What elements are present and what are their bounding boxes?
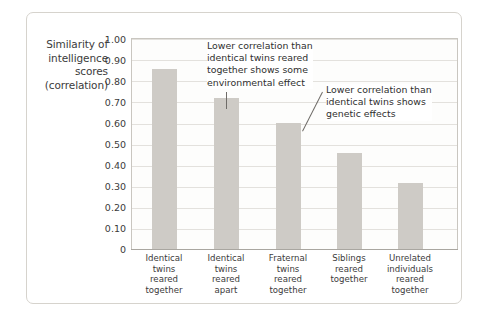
- annotation-line: Lower correlation than: [326, 84, 432, 96]
- ytick-0.50: 0.50: [94, 139, 126, 150]
- bar-fraternal-twins-reared-together: [276, 123, 301, 250]
- ytick-0.70: 0.70: [94, 97, 126, 108]
- ytick-0.80: 0.80: [94, 76, 126, 87]
- ytick-0.20: 0.20: [94, 202, 126, 213]
- ytick-0.10: 0.10: [94, 223, 126, 234]
- annotation-leader-environmental-effect: [226, 92, 227, 109]
- xtick-line: Siblings: [317, 253, 381, 264]
- bar-identical-twins-reared-together: [152, 69, 177, 251]
- annotation-line: together shows some: [207, 64, 313, 76]
- bar-identical-twins-reared-apart: [214, 98, 239, 250]
- xtick-line: twins: [256, 264, 320, 275]
- ytick-0.40: 0.40: [94, 160, 126, 171]
- xtick-line: Fraternal: [256, 253, 320, 264]
- xtick-line: together: [317, 274, 381, 285]
- xtick-line: together: [256, 285, 320, 296]
- x-axis-line: [131, 249, 458, 250]
- xtick-line: Identical: [194, 253, 258, 264]
- xtick-line: reared: [132, 274, 196, 285]
- xtick-line: reared: [256, 274, 320, 285]
- xtick-line: reared: [317, 264, 381, 275]
- annotation-line: Lower correlation than: [207, 40, 313, 52]
- annotation-line: environmental effect: [207, 77, 313, 89]
- xtick-line: apart: [194, 285, 258, 296]
- xtick-fraternal-twins-reared-together: Fraternal twins reared together: [256, 253, 320, 295]
- ytick-0.30: 0.30: [94, 181, 126, 192]
- ytick-0.60: 0.60: [94, 118, 126, 129]
- xtick-line: individuals: [378, 264, 442, 275]
- xtick-identical-twins-reared-apart: Identical twins reared apart: [194, 253, 258, 295]
- xtick-line: together: [132, 285, 196, 296]
- ytick-0.90: 0.90: [94, 55, 126, 66]
- annotation-line: identical twins shows: [326, 96, 432, 108]
- ytick-1.00: 1.00: [94, 34, 126, 45]
- y-axis-tick-labels: 1.00 0.90 0.80 0.70 0.60 0.50 0.40 0.30 …: [94, 0, 126, 318]
- ytick-0: 0: [94, 244, 126, 255]
- annotation-line: genetic effects: [326, 108, 432, 120]
- bar-siblings-reared-together: [337, 153, 362, 250]
- xtick-line: Unrelated: [378, 253, 442, 264]
- xtick-line: twins: [194, 264, 258, 275]
- xtick-line: Identical: [132, 253, 196, 264]
- xtick-identical-twins-reared-together: Identical twins reared together: [132, 253, 196, 295]
- chart-figure: Similarity of intelligence scores (corre…: [0, 0, 489, 318]
- annotation-genetic-effects: Lower correlation than identical twins s…: [326, 84, 432, 121]
- xtick-unrelated-individuals-reared-together: Unrelated individuals reared together: [378, 253, 442, 295]
- annotation-line: identical twins reared: [207, 52, 313, 64]
- xtick-line: reared: [194, 274, 258, 285]
- xtick-line: together: [378, 285, 442, 296]
- bar-unrelated-individuals-reared-together: [398, 183, 423, 251]
- xtick-line: reared: [378, 274, 442, 285]
- xtick-siblings-reared-together: Siblings reared together: [317, 253, 381, 285]
- annotation-environmental-effect: Lower correlation than identical twins r…: [207, 40, 313, 89]
- xtick-line: twins: [132, 264, 196, 275]
